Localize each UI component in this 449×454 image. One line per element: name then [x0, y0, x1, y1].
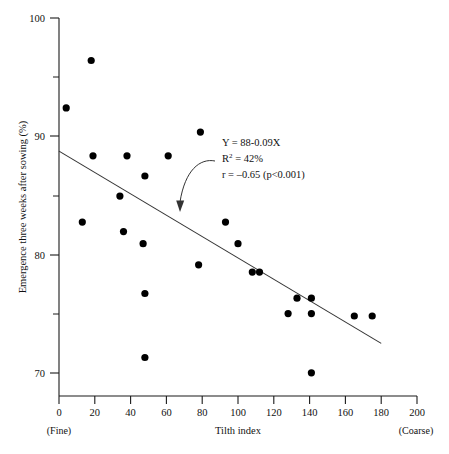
data-point [234, 240, 241, 247]
data-point [351, 312, 358, 319]
data-point [195, 261, 202, 268]
data-point [79, 219, 86, 226]
x-tick-label-180: 180 [373, 407, 389, 418]
x-tick-label-200: 200 [409, 407, 425, 418]
x-tick-label-140: 140 [302, 407, 318, 418]
annotation-r-value-text: = 42% [233, 153, 264, 164]
data-point [89, 152, 96, 159]
annotation-equation: Y = 88-0.09X [222, 137, 281, 148]
data-point [285, 310, 292, 317]
x-tick-label-0: 0 [56, 407, 61, 418]
x-tick-label-120: 120 [266, 407, 282, 418]
data-point [165, 152, 172, 159]
y-tick-label-70: 70 [35, 368, 46, 379]
x-axis-end-label-coarse: (Coarse) [399, 425, 433, 437]
data-point [141, 354, 148, 361]
x-tick-label-20: 20 [90, 407, 101, 418]
x-tick-label-160: 160 [338, 407, 354, 418]
data-point [63, 104, 70, 111]
annotation-r-base: R [222, 153, 229, 164]
scatter-plot-figure: 100 90 80 70 0 20 40 60 80 100 120 [0, 0, 449, 454]
x-tick-label-100: 100 [230, 407, 246, 418]
data-point [308, 369, 315, 376]
y-axis-title: Emergence three weeks after sowing (%) [17, 120, 29, 293]
data-point [249, 269, 256, 276]
annotation-correlation: r = –0.65 (p<0.001) [222, 169, 305, 181]
x-axis-title: Tilth index [215, 425, 262, 436]
data-point [116, 193, 123, 200]
data-point [308, 310, 315, 317]
chart-background [0, 0, 449, 454]
data-point [123, 152, 130, 159]
y-tick-label-80: 80 [35, 250, 46, 261]
data-point [308, 295, 315, 302]
x-axis-end-label-fine: (Fine) [47, 425, 71, 437]
chart-canvas: 100 90 80 70 0 20 40 60 80 100 120 [0, 0, 449, 454]
x-tick-label-60: 60 [161, 407, 172, 418]
data-point [222, 219, 229, 226]
data-point [141, 290, 148, 297]
data-point [197, 129, 204, 136]
x-tick-label-40: 40 [125, 407, 136, 418]
y-tick-label-100: 100 [29, 13, 45, 24]
data-point [256, 269, 263, 276]
data-point [140, 240, 147, 247]
data-point [293, 295, 300, 302]
data-point [120, 228, 127, 235]
y-tick-label-90: 90 [35, 131, 46, 142]
data-point [141, 172, 148, 179]
data-point [88, 57, 95, 64]
data-point [369, 312, 376, 319]
x-tick-label-80: 80 [197, 407, 208, 418]
annotation-r-squared: R2 = 42% [222, 152, 263, 164]
